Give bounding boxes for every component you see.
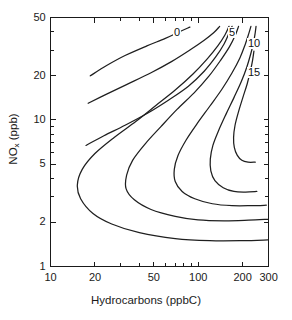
x-tick-label: 10 [45, 272, 57, 283]
x-tick-label: 300 [260, 272, 278, 283]
y-axis-title-units: (ppb) [7, 113, 19, 143]
contour-line [174, 26, 266, 205]
y-tick-label: 2 [40, 216, 46, 227]
x-tick-label: 50 [148, 272, 160, 283]
contour-value-label: 5 [228, 27, 236, 38]
contour-line [86, 26, 232, 145]
axis-ticks [51, 18, 269, 267]
axis-frame [51, 18, 269, 267]
y-tick-label: 5 [40, 158, 46, 169]
y-tick-label: 1 [40, 261, 46, 272]
x-tick-label: 100 [189, 272, 207, 283]
x-axis-title: Hydrocarbons (ppbC) [0, 294, 292, 306]
y-tick-label: 50 [34, 12, 46, 23]
y-tick-label: 10 [34, 114, 46, 125]
x-tick-label: 200 [234, 272, 252, 283]
contour-lines [77, 26, 268, 241]
contour-value-label: 10 [247, 38, 261, 49]
y-tick-label: 20 [34, 70, 46, 81]
contour-line [210, 26, 257, 192]
contour-value-label: 0 [173, 27, 181, 38]
x-tick-label: 20 [89, 272, 101, 283]
y-axis-title-main: NO [7, 147, 19, 164]
contour-value-label: 15 [247, 67, 261, 78]
y-axis-title: NOx (ppb) [7, 79, 19, 199]
ozone-isopleth-chart: 102050100200300125102050 051015 Hydrocar… [0, 0, 292, 320]
y-axis-title-subscript: x [12, 143, 21, 147]
